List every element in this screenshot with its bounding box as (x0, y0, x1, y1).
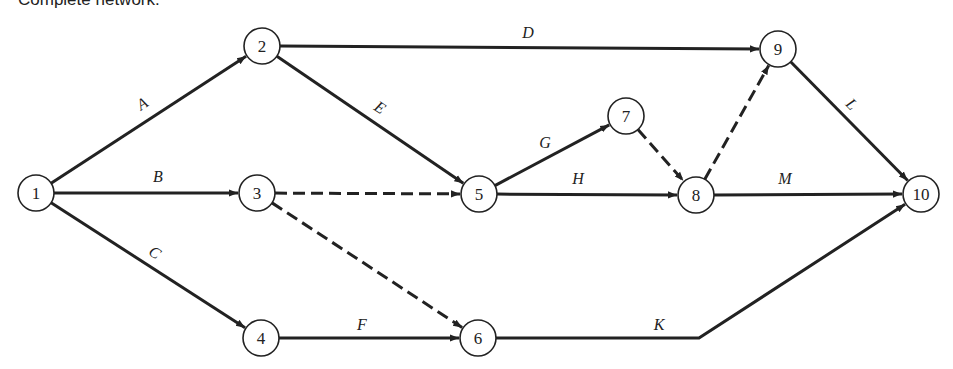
edge-dummy-3-6 (272, 203, 462, 328)
network-diagram: 12345678910 ABCDEGHMLFK (0, 0, 953, 369)
node-label: 9 (774, 40, 783, 59)
edge-label-h: H (571, 170, 585, 187)
node-label: 4 (257, 329, 266, 348)
edge-label-c: C (146, 242, 164, 262)
node-label: 10 (913, 185, 930, 204)
edge-label-f: F (356, 316, 367, 333)
edge-d (280, 46, 759, 49)
node-label: 2 (258, 37, 267, 56)
edge-dummy-7-8 (638, 129, 683, 180)
node-8: 8 (678, 177, 714, 213)
edge-label-l: L (842, 94, 861, 113)
edge-dummy-8-9 (705, 66, 769, 180)
node-2: 2 (244, 28, 280, 64)
edge-dummy-3-5 (275, 193, 460, 194)
node-7: 7 (608, 98, 644, 134)
edge-label-d: D (521, 24, 534, 41)
edge-h (497, 194, 677, 195)
node-label: 3 (253, 184, 262, 203)
edge-label-m: M (777, 170, 793, 187)
edge-g (495, 125, 609, 186)
node-label: 1 (32, 184, 41, 203)
node-label: 8 (692, 186, 701, 205)
edge-c (51, 203, 245, 328)
node-label: 6 (474, 329, 483, 348)
edge-m (714, 194, 902, 195)
node-label: 7 (622, 107, 631, 126)
edge-label-a: A (132, 93, 150, 113)
node-6: 6 (460, 320, 496, 356)
edge-label-k: K (653, 316, 666, 333)
node-1: 1 (18, 175, 54, 211)
edge-l (791, 62, 908, 181)
node-9: 9 (760, 31, 796, 67)
node-4: 4 (243, 320, 279, 356)
edge-k (496, 204, 905, 338)
node-10: 10 (903, 176, 939, 212)
edge-label-g: G (539, 134, 551, 151)
edge-labels-layer: ABCDEGHMLFK (132, 24, 861, 333)
node-3: 3 (239, 175, 275, 211)
edge-label-b: B (153, 168, 163, 185)
edge-e (277, 56, 463, 183)
node-5: 5 (461, 176, 497, 212)
node-label: 5 (475, 185, 484, 204)
edge-label-e: E (370, 97, 388, 117)
edge-a (51, 56, 246, 183)
